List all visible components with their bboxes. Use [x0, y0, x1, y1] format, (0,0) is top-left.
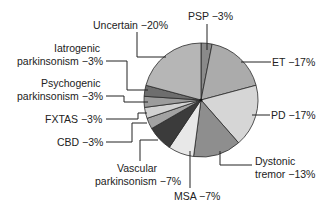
pie-center-dot	[199, 98, 202, 101]
label-pd: PD −17%	[271, 109, 316, 121]
label-uncertain: Uncertain −20%	[93, 19, 168, 31]
label-msa: MSA −7%	[174, 190, 220, 202]
pie-chart: PSP −3% ET −17% PD −17% Dystonic tremor …	[0, 0, 329, 210]
pie-slices	[144, 43, 258, 157]
label-vascular-line1: Vascular	[117, 162, 158, 174]
leader-iatrogenic	[106, 61, 148, 90]
label-iatrogenic-line2: parkinsonism −3%	[17, 55, 103, 67]
label-fxtas: FXTAS −3%	[45, 113, 102, 125]
label-psp: PSP −3%	[188, 10, 233, 22]
label-dystonic-line1: Dystonic	[255, 155, 295, 167]
label-psychogenic-line1: Psychogenic	[41, 77, 101, 89]
label-iatrogenic-line1: Iatrogenic	[54, 42, 100, 54]
label-et: ET −17%	[272, 56, 315, 68]
label-psychogenic-line2: parkinsonism −3%	[17, 90, 103, 102]
leader-cbd	[106, 123, 147, 142]
leader-psychogenic	[106, 96, 148, 102]
label-vascular-line2: parkinsonism −7%	[95, 175, 181, 187]
leader-fxtas	[106, 113, 147, 119]
leader-dystonic	[220, 151, 252, 165]
label-dystonic-line2: tremor −13%	[255, 168, 315, 180]
leader-vascular	[140, 140, 158, 161]
leader-uncertain	[137, 32, 166, 57]
label-cbd: CBD −3%	[57, 136, 103, 148]
